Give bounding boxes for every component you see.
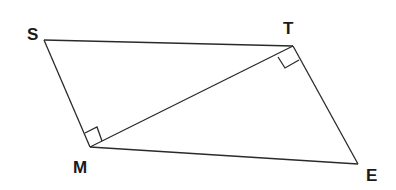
segment-mt [90, 46, 293, 147]
segment-st [44, 40, 293, 46]
label-e: E [366, 166, 377, 185]
right-angle-marker-m [85, 127, 102, 141]
right-angle-marker-t [278, 57, 299, 68]
segment-te [293, 46, 358, 164]
segment-sm [44, 40, 90, 147]
segment-me [90, 147, 358, 164]
label-s: S [27, 25, 38, 44]
label-m: M [73, 158, 87, 177]
label-t: T [283, 19, 294, 38]
diagram-canvas: S T M E [0, 0, 396, 190]
geometry-diagram: S T M E [0, 0, 396, 190]
